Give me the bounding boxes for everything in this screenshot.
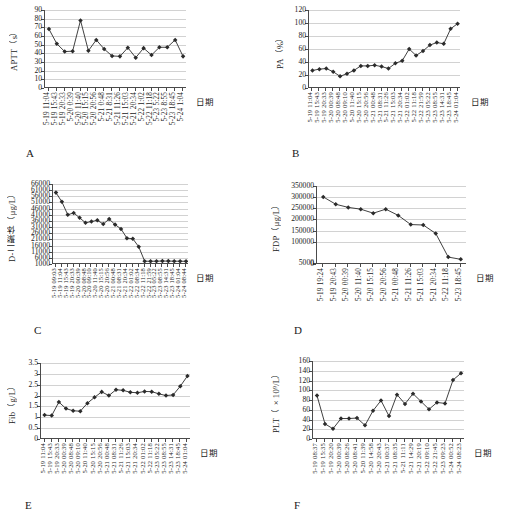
data-point (347, 416, 352, 421)
x-axis-title: 日期 (476, 271, 494, 283)
y-tick-label: 1.5 (29, 403, 39, 411)
y-tick-label: 350000 (291, 182, 314, 190)
y-tick-label: 10 (34, 76, 42, 84)
x-tick-mark (447, 264, 448, 267)
plot-area (52, 184, 188, 264)
x-tick-mark (136, 439, 137, 442)
y-tick-label: 100000 (291, 238, 314, 246)
x-tick-mark (436, 439, 437, 442)
x-tick-label: 5-24 01:04 (182, 443, 189, 474)
data-point (446, 255, 451, 260)
x-axis-title: 日期 (200, 446, 218, 458)
y-tick-label: 50 (34, 41, 42, 49)
x-tick-label: 5-24 01:04 (453, 92, 460, 123)
x-tick-mark (72, 439, 73, 442)
y-tick-label: 120 (299, 377, 310, 385)
data-point (387, 414, 392, 419)
plot-area (308, 10, 460, 88)
x-tick-mark (165, 439, 166, 442)
x-tick-mark (167, 264, 168, 267)
x-tick-label: 5-21 20:19 (416, 443, 423, 474)
x-tick-label: 5-20 11:39 (360, 443, 367, 474)
data-point (42, 413, 47, 418)
x-tick-mark (367, 88, 368, 91)
x-tick-mark (64, 88, 65, 91)
y-tick-label: 20 (298, 71, 306, 79)
x-tick-mark (318, 88, 319, 91)
x-tick-label: 5-19 15:43 (52, 92, 59, 125)
x-tick-label: 5-19 20:33 (60, 92, 67, 125)
x-tick-label: 5-21 00:48 (393, 268, 400, 301)
x-tick-label: 5-22 21:45 (432, 443, 439, 474)
x-tick-mark (360, 88, 361, 91)
data-point (346, 205, 351, 210)
y-tick-label: 100 (295, 19, 306, 27)
plot-area (44, 10, 186, 88)
x-tick-mark (61, 264, 62, 267)
y-tick-label: 70 (34, 24, 42, 32)
x-tick-mark (404, 439, 405, 442)
y-tick-label: 100 (299, 386, 310, 394)
x-tick-mark (55, 264, 56, 267)
x-tick-mark (56, 88, 57, 91)
x-tick-mark (388, 439, 389, 442)
x-tick-label: 5-19 08:37 (312, 443, 319, 474)
x-tick-mark (115, 439, 116, 442)
x-tick-mark (444, 439, 445, 442)
data-point (458, 257, 463, 262)
x-tick-mark (460, 439, 461, 442)
data-point (70, 49, 75, 54)
data-point (178, 259, 183, 264)
x-tick-label: 5-23 18:45 (456, 268, 463, 301)
chart-panel-a: APTT（s）01020304050607080905-19 11:045-19… (0, 0, 264, 176)
x-tick-mark (332, 88, 333, 91)
x-tick-mark (158, 439, 159, 442)
x-tick-mark (348, 439, 349, 442)
x-tick-mark (58, 439, 59, 442)
data-point (157, 392, 162, 397)
data-point (372, 63, 377, 68)
x-tick-mark (372, 264, 373, 267)
y-tick-label: 150000 (291, 227, 314, 235)
x-tick-mark (339, 88, 340, 91)
x-tick-mark (347, 264, 348, 267)
x-tick-label: 5-20 0:39 (68, 92, 75, 122)
data-point (321, 195, 326, 200)
data-point (89, 219, 94, 224)
data-point (54, 190, 59, 195)
data-point (359, 64, 364, 69)
data-point (71, 409, 76, 414)
data-point (310, 68, 315, 73)
data-point (142, 389, 147, 394)
x-tick-mark (67, 264, 68, 267)
data-point (166, 259, 171, 264)
x-tick-label: 5-21 20:34 (431, 268, 438, 301)
x-tick-label: 5-21 15:03 (123, 92, 130, 125)
data-point (345, 71, 350, 76)
x-tick-mark (396, 439, 397, 442)
x-tick-label: 5-19 19:24 (318, 268, 325, 301)
y-axis-tick-labels: 1000600011000160002100026000310003600041… (10, 184, 50, 264)
y-tick-label: 90 (34, 6, 42, 14)
y-tick-label: 80 (298, 32, 306, 40)
x-tick-mark (450, 88, 451, 91)
y-tick-label: 40 (302, 416, 310, 424)
x-tick-mark (173, 264, 174, 267)
x-tick-mark (380, 439, 381, 442)
x-tick-mark (101, 439, 102, 442)
data-point (323, 422, 328, 427)
series-line (309, 10, 460, 88)
plot-area (40, 363, 190, 439)
y-tick-label: 0 (34, 435, 38, 443)
x-tick-label: 5-21 20:34 (131, 92, 138, 125)
series-line (317, 186, 466, 264)
x-tick-mark (340, 439, 341, 442)
series-line (53, 184, 188, 264)
x-tick-mark (72, 88, 73, 91)
chart-panel-c: D-二聚体（μg/L）10006000110001600021000260003… (0, 176, 264, 351)
x-tick-mark (360, 264, 361, 267)
x-axis-tick-labels: 5-19 11:045-19 15:435-19 20:335-20 00:39… (308, 92, 460, 136)
data-point (160, 259, 165, 264)
x-tick-mark (372, 439, 373, 442)
x-tick-mark (443, 88, 444, 91)
